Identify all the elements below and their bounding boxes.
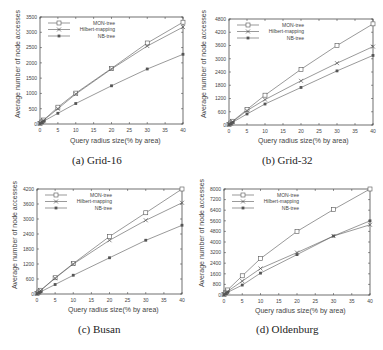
series-nb-tree [39, 53, 185, 125]
legend-label: Hilbert-mapping [80, 26, 116, 32]
y-tick-label: 3500 [26, 14, 37, 20]
marker-filled-square-icon [231, 121, 234, 124]
x-tick-label: 20 [294, 298, 300, 304]
marker-cross-icon [299, 79, 303, 83]
chart-panel-grid16: 0500100015002000250030003500051015202530… [0, 0, 192, 175]
series-hilbert-mapping [227, 45, 375, 127]
y-tick-label: 500 [29, 106, 38, 112]
y-tick-label: 3000 [23, 216, 34, 222]
marker-filled-square-icon [39, 290, 42, 293]
marker-open-square-icon [371, 22, 375, 26]
legend-label: Hilbert-mapping [269, 28, 305, 34]
x-tick-label: 0 [228, 128, 231, 134]
x-tick-label: 25 [316, 128, 322, 134]
marker-filled-square-icon [42, 120, 45, 123]
marker-open-square-icon [368, 187, 372, 191]
y-tick-label: 1000 [26, 90, 37, 96]
x-tick-label: 20 [107, 297, 113, 303]
y-tick-label: 600 [218, 109, 227, 115]
x-tick-label: 30 [144, 127, 150, 133]
marker-filled-square-icon [247, 37, 250, 40]
marker-filled-square-icon [296, 253, 299, 256]
marker-filled-square-icon [144, 239, 147, 242]
marker-cross-icon [263, 98, 267, 102]
y-tick-label: 4000 [210, 239, 221, 245]
chart-panel-oldenburg: 0800160024003200400048005600640072008000… [192, 175, 383, 350]
x-tick-label: 5 [246, 128, 249, 134]
marker-filled-square-icon [264, 103, 267, 106]
x-tick-label: 10 [258, 298, 264, 304]
chart-legend: MON-treeHilbert-mappingNB-tree [232, 192, 299, 211]
marker-filled-square-icon [54, 283, 57, 286]
marker-open-square-icon [263, 93, 267, 97]
y-tick-label: 1800 [23, 246, 34, 252]
marker-filled-square-icon [55, 207, 58, 210]
legend-label: MON-tree [90, 192, 112, 198]
chart-plot-grid32: 0600120018002400300036004200480005101520… [192, 0, 383, 175]
y-tick-label: 2400 [215, 69, 226, 75]
x-tick-label: 35 [162, 127, 168, 133]
marker-cross-icon [108, 238, 112, 242]
legend-label: MON-tree [277, 192, 299, 198]
marker-filled-square-icon [108, 256, 111, 259]
x-tick-label: 5 [54, 297, 57, 303]
y-tick-label: 3600 [23, 201, 34, 207]
marker-open-square-icon [144, 211, 148, 215]
x-axis-label: Query radius size(% by area) [255, 307, 346, 314]
marker-filled-square-icon [56, 112, 59, 115]
marker-cross-icon [144, 218, 148, 222]
x-tick-label: 40 [179, 297, 185, 303]
y-axis-label: Average number of node accesses [14, 10, 21, 118]
x-tick-label: 15 [91, 127, 97, 133]
series-hilbert-mapping [38, 25, 185, 125]
legend-label: NB-tree [95, 205, 112, 211]
marker-filled-square-icon [146, 68, 149, 71]
x-tick-label: 20 [109, 127, 115, 133]
y-tick-label: 0 [223, 122, 226, 128]
series-nb-tree [228, 54, 375, 126]
marker-open-square-icon [332, 208, 336, 212]
marker-open-square-icon [241, 193, 245, 197]
marker-filled-square-icon [332, 235, 335, 238]
legend-label: NB-tree [282, 205, 299, 211]
marker-filled-square-icon [336, 69, 339, 72]
marker-open-square-icon [299, 67, 303, 71]
series-hilbert-mapping [222, 223, 372, 297]
chart-legend: MON-treeHilbert-mappingNB-tree [48, 20, 115, 39]
marker-filled-square-icon [74, 102, 77, 105]
marker-open-square-icon [259, 257, 263, 261]
x-tick-label: 40 [180, 127, 186, 133]
x-tick-label: 0 [36, 297, 39, 303]
marker-open-square-icon [54, 193, 58, 197]
series-hilbert-mapping [35, 201, 184, 296]
x-tick-label: 25 [125, 297, 131, 303]
chart-legend: MON-treeHilbert-mappingNB-tree [45, 192, 112, 211]
y-axis-label: Average number of node accesses [11, 181, 18, 289]
y-axis-label: Average number of node accesses [198, 179, 205, 287]
marker-cross-icon [259, 267, 263, 271]
x-tick-label: 0 [39, 127, 42, 133]
y-tick-label: 1200 [23, 261, 34, 267]
marker-open-square-icon [240, 274, 244, 278]
marker-open-square-icon [108, 235, 112, 239]
y-tick-label: 7200 [210, 196, 221, 202]
y-tick-label: 8000 [210, 186, 221, 192]
x-tick-label: 10 [70, 297, 76, 303]
marker-filled-square-icon [58, 35, 61, 38]
x-tick-label: 10 [262, 128, 268, 134]
y-tick-label: 1500 [26, 75, 37, 81]
x-tick-label: 10 [73, 127, 79, 133]
marker-open-square-icon [246, 23, 250, 27]
y-tick-label: 4200 [23, 186, 34, 192]
marker-open-square-icon [335, 44, 339, 48]
marker-cross-icon [335, 61, 339, 65]
x-tick-label: 25 [127, 127, 133, 133]
x-tick-label: 25 [312, 298, 318, 304]
y-tick-label: 0 [34, 121, 37, 127]
x-tick-label: 20 [298, 128, 304, 134]
y-tick-label: 800 [213, 281, 222, 287]
marker-filled-square-icon [182, 53, 185, 56]
x-tick-label: 30 [331, 298, 337, 304]
x-axis-label: Query radius size(% by area) [68, 306, 159, 313]
marker-open-square-icon [57, 21, 61, 25]
